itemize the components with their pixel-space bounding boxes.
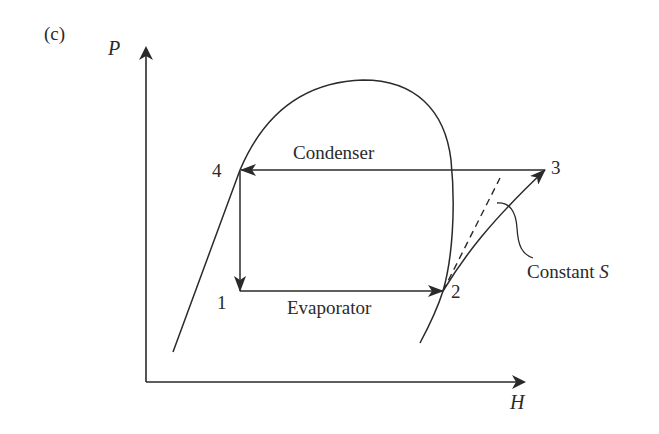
condenser-label: Condenser (293, 143, 374, 162)
evaporator-label: Evaporator (287, 298, 371, 317)
refrigeration-cycle-ph-diagram (0, 0, 659, 434)
y-axis-label: P (108, 38, 120, 58)
panel-label: (c) (44, 24, 65, 43)
constant-s-label: Constant S (527, 262, 609, 281)
x-axis-label: H (510, 392, 524, 412)
constant-s-leader-line (497, 203, 533, 258)
point-1-label: 1 (217, 293, 227, 312)
constant-s-text: Constant (527, 261, 599, 282)
constant-s-variable: S (599, 261, 609, 282)
point-3-label: 3 (551, 158, 561, 177)
point-2-label: 2 (451, 282, 461, 301)
point-4-label: 4 (212, 161, 222, 180)
